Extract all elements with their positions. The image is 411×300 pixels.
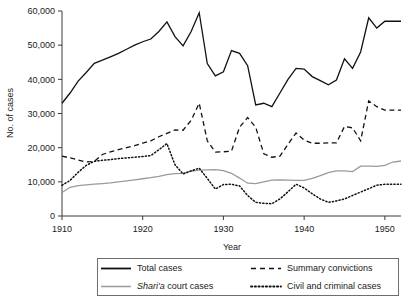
y-axis: 010,00020,00030,00040,00050,00060,000: [27, 6, 62, 221]
y-tick-label: 10,000: [27, 177, 55, 187]
dotted-line-swatch: [250, 282, 282, 291]
solid-line-swatch: [100, 264, 132, 273]
legend-label-summary-convictions: Summary convictions: [287, 263, 373, 273]
chart-legend: Total cases Summary convictions Shari'a …: [97, 258, 399, 296]
legend-item-sharia-court-cases: Shari'a court cases: [100, 281, 250, 291]
y-tick-label: 40,000: [27, 75, 55, 85]
legend-label-total-cases: Total cases: [137, 263, 182, 273]
data-series-group: [62, 13, 401, 204]
x-tick-label: 1940: [294, 224, 314, 234]
series-summary-convictions: [62, 101, 401, 162]
legend-item-summary-convictions: Summary convictions: [250, 263, 402, 273]
series-total-cases: [62, 13, 401, 107]
y-tick-label: 20,000: [27, 143, 55, 153]
x-tick-label: 1950: [375, 224, 395, 234]
x-axis: 19101920193019401950: [52, 216, 401, 234]
y-tick-label: 30,000: [27, 109, 55, 119]
x-tick-label: 1920: [133, 224, 153, 234]
series-sharia-court-cases: [62, 161, 401, 192]
legend-label-sharia-court-cases: Shari'a court cases: [137, 281, 213, 291]
legend-label-civil-and-criminal-cases: Civil and criminal cases: [287, 281, 381, 291]
x-tick-label: 1910: [52, 224, 72, 234]
x-tick-label: 1930: [213, 224, 233, 234]
dashed-line-swatch: [250, 264, 282, 273]
chart-figure: 010,00020,00030,00040,00050,00060,000 19…: [0, 0, 411, 300]
y-tick-label: 50,000: [27, 40, 55, 50]
y-tick-label: 60,000: [27, 6, 55, 16]
legend-label-sharia-rest: court cases: [165, 281, 214, 291]
line-chart-plot: 010,00020,00030,00040,00050,00060,000 19…: [0, 0, 411, 258]
x-axis-title: Year: [223, 242, 241, 252]
legend-item-civil-and-criminal-cases: Civil and criminal cases: [250, 281, 402, 291]
gray-solid-line-swatch: [100, 282, 132, 291]
y-axis-title: No. of cases: [5, 87, 15, 138]
legend-label-sharia-italic: Shari'a: [137, 281, 165, 291]
y-tick-label: 0: [50, 211, 55, 221]
legend-item-total-cases: Total cases: [100, 263, 250, 273]
